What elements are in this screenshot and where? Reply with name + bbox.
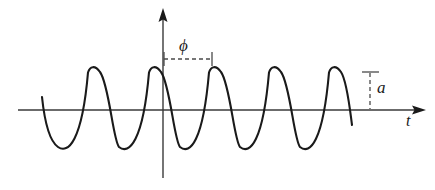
- waveform-figure: ϕ a t: [0, 0, 435, 190]
- amplitude-label: a: [377, 79, 386, 96]
- time-axis: [18, 106, 426, 115]
- waveform-canvas: [0, 0, 435, 190]
- phase-label: ϕ: [179, 37, 188, 54]
- sine-wave-curve: [42, 67, 352, 149]
- amplitude-axis: [159, 8, 168, 178]
- phase-offset-annotation: [164, 52, 212, 66]
- time-axis-label: t: [406, 113, 410, 129]
